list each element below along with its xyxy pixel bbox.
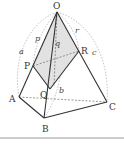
edge-label-b: b [59,86,64,95]
edge-AB [19,97,44,118]
label-Q: Q [40,90,47,100]
label-B: B [42,124,49,134]
edge-AC-hidden [19,97,107,102]
label-P: P [24,61,30,71]
edge-label-c: c [92,48,97,57]
edge-label-p: p [35,34,40,43]
label-R: R [81,46,88,56]
label-O: O [53,1,60,11]
label-A: A [8,94,16,104]
edge-label-r: r [75,26,80,35]
tetrahedron-diagram: O P R Q A B C a p q r c b [0,0,124,145]
edge-label-q: q [55,39,60,48]
edge-label-a: a [19,47,24,56]
edge-BC [44,102,107,118]
label-C: C [109,102,116,112]
